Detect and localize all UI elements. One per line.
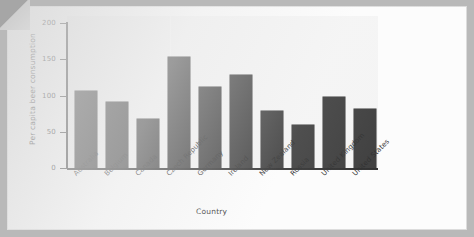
y-tick-mark-200 — [60, 23, 67, 24]
bar-chart: 0 50 100 150 200 Australia Belgium Canad… — [0, 0, 474, 237]
bar-ireland[interactable] — [230, 75, 252, 168]
y-axis-title-text: Per capita beer consumption — [28, 33, 37, 145]
bars-layer — [67, 16, 378, 168]
page-corner-shadow — [0, 0, 30, 30]
x-axis-title: Country — [196, 207, 227, 216]
screenshot-root: 0 50 100 150 200 Australia Belgium Canad… — [0, 0, 474, 237]
y-tick-label-150: 150 — [42, 55, 56, 63]
y-tick-label-50: 50 — [47, 128, 56, 136]
y-tick-mark-100 — [60, 96, 67, 97]
y-tick-mark-0 — [60, 168, 67, 169]
y-tick-mark-50 — [60, 132, 67, 133]
y-tick-label-0: 0 — [51, 164, 56, 172]
y-tick-label-100: 100 — [42, 92, 56, 100]
y-tick-label-200: 200 — [42, 19, 56, 27]
y-tick-mark-150 — [60, 59, 67, 60]
